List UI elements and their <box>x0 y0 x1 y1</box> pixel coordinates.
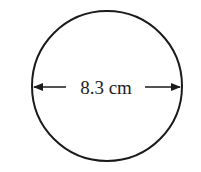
circle-diagram: 8.3 cm <box>0 0 201 172</box>
diameter-label: 8.3 cm <box>80 77 132 98</box>
